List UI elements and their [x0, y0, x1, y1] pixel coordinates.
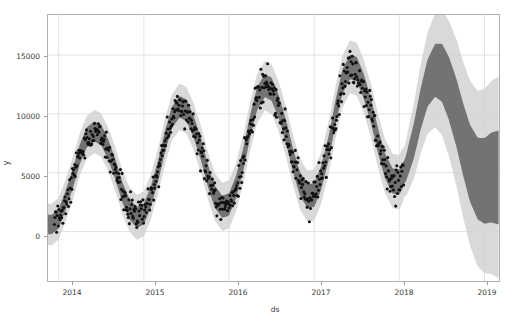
- data-point: [118, 176, 121, 179]
- data-point: [399, 175, 402, 178]
- data-point: [146, 187, 149, 190]
- data-point: [368, 89, 371, 92]
- data-point: [156, 170, 159, 173]
- data-point: [128, 222, 131, 225]
- data-point: [348, 50, 351, 53]
- data-point: [361, 87, 364, 90]
- x-tick-mark-2016: [238, 282, 239, 285]
- data-point: [135, 226, 138, 229]
- data-point: [198, 139, 201, 142]
- prophet-forecast-figure: y ds 0 5000 10000 15000 2014 2015 2016 2…: [0, 0, 521, 326]
- data-point: [197, 148, 200, 151]
- data-point: [255, 99, 258, 102]
- data-point: [194, 127, 197, 130]
- data-point: [72, 168, 75, 171]
- data-point: [159, 158, 162, 161]
- data-point: [294, 149, 297, 152]
- data-point: [280, 122, 283, 125]
- data-point: [181, 104, 184, 107]
- data-point: [129, 190, 132, 193]
- data-point: [269, 93, 272, 96]
- data-point: [258, 96, 261, 99]
- x-tick-mark-2019: [487, 282, 488, 285]
- data-point: [138, 214, 141, 217]
- data-point: [56, 214, 59, 217]
- data-point: [215, 214, 218, 217]
- data-point: [214, 188, 217, 191]
- data-point: [92, 135, 95, 138]
- data-point: [153, 183, 156, 186]
- data-point: [141, 198, 144, 201]
- data-point: [364, 96, 367, 99]
- x-tick-label-2014: 2014: [62, 288, 81, 297]
- data-point: [117, 172, 120, 175]
- data-point: [369, 95, 372, 98]
- data-point: [378, 140, 381, 143]
- data-point: [131, 199, 134, 202]
- data-point: [283, 119, 286, 122]
- data-point: [329, 156, 332, 159]
- x-tick-mark-2017: [321, 282, 322, 285]
- data-point: [171, 123, 174, 126]
- data-point: [348, 56, 351, 59]
- data-point: [288, 144, 291, 147]
- data-point: [367, 115, 370, 118]
- data-point: [313, 180, 316, 183]
- data-point: [140, 204, 143, 207]
- x-tick-label-2018: 2018: [394, 288, 413, 297]
- data-point: [126, 213, 129, 216]
- data-point: [169, 131, 172, 134]
- data-point: [341, 82, 344, 85]
- data-point: [297, 156, 300, 159]
- data-point: [143, 215, 146, 218]
- data-point: [295, 168, 298, 171]
- data-point: [373, 114, 376, 117]
- data-point: [394, 205, 397, 208]
- data-point: [92, 139, 95, 142]
- data-point: [284, 107, 287, 110]
- data-point: [384, 172, 387, 175]
- data-point: [346, 66, 349, 69]
- data-point: [101, 143, 104, 146]
- data-point: [255, 96, 258, 99]
- data-point: [385, 175, 388, 178]
- data-point: [351, 55, 354, 58]
- data-point: [237, 195, 240, 198]
- data-point: [302, 177, 305, 180]
- data-point: [125, 206, 128, 209]
- data-point: [359, 91, 362, 94]
- x-tick-label-2016: 2016: [228, 288, 247, 297]
- data-point: [111, 154, 114, 157]
- data-point: [291, 151, 294, 154]
- data-point: [176, 95, 179, 98]
- data-point: [264, 74, 267, 77]
- data-point: [323, 154, 326, 157]
- data-point: [198, 135, 201, 138]
- data-point: [242, 155, 245, 158]
- data-point: [271, 83, 274, 86]
- data-point: [168, 120, 171, 123]
- data-point: [182, 113, 185, 116]
- data-point: [154, 180, 157, 183]
- data-point: [298, 182, 301, 185]
- data-point: [53, 223, 56, 226]
- data-point: [148, 198, 151, 201]
- data-point: [228, 194, 231, 197]
- data-point: [274, 112, 277, 115]
- data-point: [230, 200, 233, 203]
- data-point: [96, 133, 99, 136]
- data-point: [112, 172, 115, 175]
- data-point: [286, 129, 289, 132]
- data-point: [280, 112, 283, 115]
- data-point: [259, 106, 262, 109]
- data-point: [352, 81, 355, 84]
- y-tick-label-15000: 15000: [0, 52, 40, 61]
- data-point: [128, 207, 131, 210]
- data-point: [253, 116, 256, 119]
- data-point: [392, 188, 395, 191]
- data-point: [245, 142, 248, 145]
- data-point: [236, 181, 239, 184]
- data-point: [231, 204, 234, 207]
- data-point: [386, 156, 389, 159]
- data-point: [355, 75, 358, 78]
